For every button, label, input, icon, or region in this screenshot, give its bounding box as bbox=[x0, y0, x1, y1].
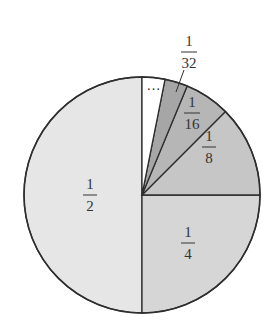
numerator: 1 bbox=[184, 224, 192, 240]
denominator: 2 bbox=[86, 198, 94, 214]
denominator: 8 bbox=[205, 150, 213, 166]
numerator: 1 bbox=[205, 128, 213, 144]
pie-chart: 1 2 1 4 1 8 1 16 1 32 … bbox=[0, 0, 279, 334]
numerator: 1 bbox=[185, 33, 193, 49]
label-one-thirtysecond: 1 32 bbox=[176, 33, 197, 92]
denominator: 16 bbox=[185, 116, 201, 132]
pie-slice-1-4 bbox=[142, 195, 260, 313]
pie-slices bbox=[24, 77, 260, 313]
denominator: 4 bbox=[184, 246, 192, 262]
numerator: 1 bbox=[86, 176, 94, 192]
denominator: 32 bbox=[182, 55, 197, 71]
ellipsis-label: … bbox=[147, 78, 162, 93]
numerator: 1 bbox=[188, 94, 196, 110]
